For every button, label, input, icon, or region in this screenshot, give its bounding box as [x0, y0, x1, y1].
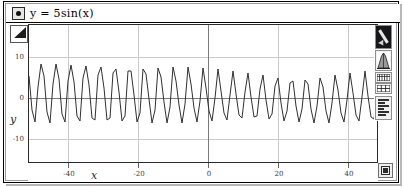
tool-strip	[374, 25, 394, 121]
fill-wedge-icon[interactable]	[10, 25, 28, 43]
plot-window-app: y = 5sin(x)	[0, 0, 404, 188]
title-bar: y = 5sin(x)	[6, 4, 400, 23]
peak-tool-button[interactable]	[375, 50, 392, 71]
x-tick-label: 0	[195, 170, 223, 178]
plot-window: y = 5sin(x)	[3, 1, 399, 183]
peak-curve-icon	[377, 52, 390, 69]
plot-area[interactable]: 10 0 -10 -40 -20 0 20 40 y x	[28, 24, 378, 182]
y-tick-label: 10	[8, 53, 24, 61]
y-tick-label: 0	[8, 94, 24, 102]
record-dot-icon[interactable]	[12, 7, 25, 20]
grid-coarse-icon	[377, 85, 390, 92]
window-inner-frame: y = 5sin(x)	[5, 3, 397, 181]
window-shadow-right	[400, 4, 402, 186]
x-tick-marks	[69, 163, 349, 168]
grid-fine-icon	[377, 74, 390, 81]
x-tick-label: -40	[55, 170, 83, 178]
pencil-icon	[379, 28, 388, 46]
x-axis-label: x	[91, 169, 97, 182]
resize-grip-icon[interactable]	[378, 163, 393, 178]
pencil-tool-button[interactable]	[375, 25, 392, 49]
x-tick-label: 40	[335, 170, 363, 178]
y-tick-label: -10	[6, 135, 24, 143]
grid-fine-tool-button[interactable]	[375, 72, 392, 83]
window-title: y = 5sin(x)	[30, 5, 94, 22]
fill-wedge-shape	[12, 27, 26, 41]
sine-curve	[29, 64, 377, 123]
grip-inner-square	[383, 168, 388, 173]
y-axis-label: y	[10, 113, 16, 126]
plot-canvas	[28, 24, 378, 182]
window-shadow-bottom	[6, 184, 402, 186]
list-lines-icon	[378, 99, 389, 117]
x-tick-label: -20	[125, 170, 153, 178]
grid-coarse-tool-button[interactable]	[375, 83, 392, 94]
legend-tool-button[interactable]	[375, 96, 392, 120]
x-tick-label: 20	[265, 170, 293, 178]
